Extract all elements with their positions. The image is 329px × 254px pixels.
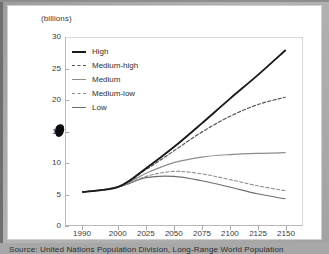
legend-swatch-icon <box>72 104 86 111</box>
legend-label: Medium-high <box>92 61 138 70</box>
screenshot-root: (billions) 051015202530 1990200020252050… <box>0 0 329 254</box>
y-tick-10: 10 <box>39 159 61 167</box>
legend-item-medium-low: Medium-low <box>72 86 192 100</box>
x-tick-2150: 2150 <box>269 229 303 238</box>
legend-item-low: Low <box>72 100 192 114</box>
legend-item-high: High <box>72 44 192 58</box>
legend-label: Low <box>92 103 107 112</box>
series-line-low <box>83 176 285 199</box>
y-tick-30: 30 <box>39 33 61 41</box>
y-tick-20: 20 <box>39 96 61 104</box>
y-tick-25: 25 <box>39 65 61 73</box>
legend-label: Medium <box>92 75 120 84</box>
source-caption-strip: Source: United Nations Population Divisi… <box>0 243 329 254</box>
legend-swatch-icon <box>72 62 86 69</box>
series-line-medium <box>83 153 285 192</box>
window-left-edge <box>0 0 3 254</box>
legend-label: High <box>92 47 108 56</box>
chart-legend: HighMedium-highMediumMedium-lowLow <box>72 44 192 114</box>
legend-label: Medium-low <box>92 89 135 98</box>
legend-swatch-icon <box>72 48 86 55</box>
y-tick-5: 5 <box>39 191 61 199</box>
legend-swatch-icon <box>72 90 86 97</box>
legend-item-medium: Medium <box>72 72 192 86</box>
legend-item-medium-high: Medium-high <box>72 58 192 72</box>
y-axis-unit-label: (billions) <box>41 14 72 23</box>
x-tick-1990: 1990 <box>65 229 99 238</box>
y-tickmark-0 <box>65 226 69 227</box>
source-caption: Source: United Nations Population Divisi… <box>9 245 284 254</box>
legend-swatch-icon <box>72 76 86 83</box>
y-tick-0: 0 <box>39 222 61 230</box>
panel-bottom-edge <box>7 239 322 240</box>
window-top-edge <box>0 0 329 2</box>
x-axis-tick-labels: 19902000202520502075210021252150 <box>65 229 303 243</box>
chart-figure-panel: (billions) 051015202530 1990200020252050… <box>7 5 322 240</box>
